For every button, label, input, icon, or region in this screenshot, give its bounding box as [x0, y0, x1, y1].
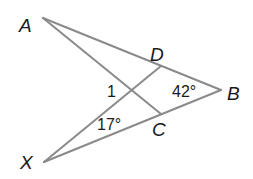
segment-xd: [44, 66, 161, 162]
point-label-c: C: [152, 119, 166, 140]
angle-b-label: 42°: [172, 83, 196, 100]
point-label-d: D: [150, 44, 164, 65]
angle-x-label: 17°: [97, 116, 121, 133]
segment-ac: [43, 18, 161, 114]
geometry-diagram: A D B C X 1 42° 17°: [0, 0, 253, 179]
point-label-x: X: [19, 152, 34, 173]
segment-xb: [44, 90, 221, 162]
segment-ab: [43, 18, 221, 90]
point-label-b: B: [227, 83, 240, 104]
angle-1-label: 1: [107, 83, 116, 100]
point-label-a: A: [18, 15, 32, 36]
